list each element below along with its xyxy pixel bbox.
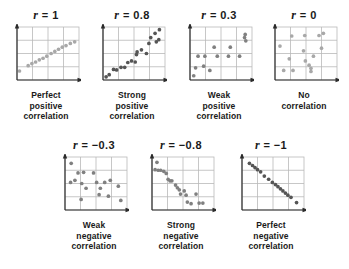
plot-area-r--1 xyxy=(236,154,306,216)
caption-line: Weak xyxy=(177,90,261,101)
data-point xyxy=(57,47,61,51)
x-axis-arrowhead xyxy=(336,78,340,82)
data-point xyxy=(290,34,294,38)
data-point xyxy=(140,48,144,52)
data-point xyxy=(126,61,130,65)
data-point xyxy=(53,50,57,54)
y-axis-arrowhead xyxy=(273,24,277,29)
data-point xyxy=(149,36,153,40)
panel-caption-r-0.8: Strongpositivecorrelation xyxy=(90,90,174,122)
data-point xyxy=(304,59,308,63)
correlation-panel-r-0.8: r = 0.8Strongpositivecorrelation xyxy=(90,8,174,122)
data-point xyxy=(130,59,134,63)
data-point xyxy=(302,49,306,53)
data-point xyxy=(179,192,183,196)
scatter-plot-r-0.3 xyxy=(184,24,254,86)
r-value: = 0.8 xyxy=(119,9,149,21)
data-point xyxy=(194,66,198,70)
data-point xyxy=(182,189,186,193)
caption-line: Strong xyxy=(139,220,223,231)
data-point xyxy=(153,168,157,172)
data-point xyxy=(286,193,290,197)
data-point xyxy=(238,54,242,58)
data-point xyxy=(243,33,247,37)
data-point xyxy=(45,54,49,58)
x-axis-arrowhead xyxy=(251,78,255,82)
data-point xyxy=(208,69,212,73)
data-point xyxy=(244,39,248,43)
data-point xyxy=(133,60,137,64)
data-point xyxy=(215,54,219,58)
y-axis-arrowhead xyxy=(240,154,244,159)
data-point xyxy=(201,201,205,205)
caption-line: positive xyxy=(90,101,174,112)
panel-title-r-0: r = 0 xyxy=(262,8,346,22)
y-axis-arrowhead xyxy=(15,24,19,29)
plot-area-r-0.3 xyxy=(184,24,254,86)
r-value: = 1 xyxy=(38,9,58,21)
data-point xyxy=(153,32,157,36)
correlation-panel-r-1: r = 1Perfectpositivecorrelation xyxy=(4,8,88,122)
data-point xyxy=(312,54,316,58)
r-value: = 0 xyxy=(296,9,316,21)
data-point xyxy=(95,181,99,185)
data-point xyxy=(317,34,321,38)
data-point xyxy=(309,66,313,70)
correlation-panel-r-0: r = 0Nocorrelation xyxy=(262,8,346,111)
plot-area-r--0.3 xyxy=(59,154,129,216)
panel-caption-r-0.3: Weakpositivecorrelation xyxy=(177,90,261,122)
data-point xyxy=(82,171,86,175)
caption-line: No xyxy=(262,90,346,101)
data-point xyxy=(69,162,73,166)
y-axis-arrowhead xyxy=(63,154,67,159)
correlation-panel-r--1: r = −1Perfectnegativecorrelation xyxy=(229,138,313,252)
caption-line: Weak xyxy=(52,220,136,231)
data-point xyxy=(49,52,53,56)
scatter-plot-r-0 xyxy=(269,24,339,86)
r-value: = −0.3 xyxy=(78,139,115,151)
caption-line: correlation xyxy=(229,241,313,252)
data-point xyxy=(64,44,68,48)
data-point xyxy=(147,42,151,46)
data-point xyxy=(197,201,201,205)
data-point xyxy=(76,171,80,175)
y-axis-arrowhead xyxy=(150,154,154,159)
data-point xyxy=(107,73,111,77)
caption-line: Strong xyxy=(90,90,174,101)
data-point xyxy=(287,57,291,61)
caption-line: positive xyxy=(4,101,88,112)
data-point xyxy=(202,64,206,68)
x-axis-arrowhead xyxy=(213,208,217,212)
r-value: = −1 xyxy=(260,139,287,151)
data-point xyxy=(84,186,88,190)
panel-caption-r--1: Perfectnegativecorrelation xyxy=(229,220,313,252)
data-point xyxy=(97,193,101,197)
data-point xyxy=(170,179,174,183)
plot-area-r--0.8 xyxy=(146,154,216,216)
caption-line: correlation xyxy=(90,111,174,122)
data-point xyxy=(262,174,266,178)
caption-line: correlation xyxy=(4,111,88,122)
data-point xyxy=(98,186,102,190)
data-point xyxy=(116,184,120,188)
data-point xyxy=(26,64,30,68)
caption-line: correlation xyxy=(139,241,223,252)
x-axis-arrowhead xyxy=(126,208,130,212)
panel-title-r--0.3: r = −0.3 xyxy=(52,138,136,152)
data-point xyxy=(185,200,189,204)
data-point xyxy=(30,62,34,66)
x-axis-arrowhead xyxy=(164,78,168,82)
correlation-panel-r-0.3: r = 0.3Weakpositivecorrelation xyxy=(177,8,261,122)
panel-title-r-1: r = 1 xyxy=(4,8,88,22)
data-point xyxy=(184,193,188,197)
caption-line: negative xyxy=(52,231,136,242)
data-point xyxy=(107,194,111,198)
data-point xyxy=(18,69,22,73)
y-axis-arrowhead xyxy=(101,24,105,29)
caption-line: Perfect xyxy=(229,220,313,231)
data-point xyxy=(267,177,271,181)
scatter-plot-r--1 xyxy=(236,154,306,216)
data-point xyxy=(322,32,326,36)
data-point xyxy=(194,192,198,196)
data-point xyxy=(119,65,123,69)
